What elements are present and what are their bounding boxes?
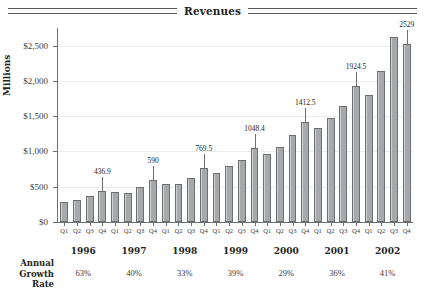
bar: [403, 44, 411, 222]
x-axis-quarter-label: Q4: [149, 227, 157, 235]
bar: [301, 122, 309, 222]
data-label: 2529: [399, 21, 414, 29]
x-axis-tick: [166, 222, 167, 226]
x-axis-tick: [229, 222, 230, 226]
bar: [124, 193, 132, 222]
bar: [86, 196, 94, 222]
bar: [175, 184, 183, 222]
x-axis-quarter-label: Q2: [225, 227, 233, 235]
agr-line-3: Rate: [6, 279, 54, 290]
growth-rate-value: 63%: [76, 268, 92, 278]
x-axis-quarter-label: Q3: [238, 227, 246, 235]
data-label: 590: [147, 157, 158, 165]
growth-rate-row: 63%40%33%39%29%36%41%: [57, 268, 413, 280]
bar: [225, 166, 233, 222]
year-label: 1997: [122, 246, 147, 257]
year-label: 2001: [324, 246, 349, 257]
year-label: 2002: [375, 246, 400, 257]
y-axis-tick-label: $1,000: [0, 146, 48, 156]
x-axis-quarter-label: Q2: [276, 227, 284, 235]
growth-rate-value: 39%: [228, 268, 244, 278]
x-axis-quarter-label: Q3: [339, 227, 347, 235]
x-axis-quarter-label: Q3: [187, 227, 195, 235]
data-label: 1412.5: [295, 99, 316, 107]
bar: [327, 118, 335, 222]
y-axis-tick-label: $500: [0, 182, 48, 192]
x-axis-tick: [115, 222, 116, 226]
year-row: 1996199719981999200020012002: [57, 246, 413, 258]
data-label: 1048.4: [244, 125, 265, 133]
x-axis-quarter-label: Q1: [162, 227, 170, 235]
x-axis-tick: [267, 222, 268, 226]
x-axis-tick: [242, 222, 243, 226]
data-label-leader-line: [153, 166, 154, 180]
bar: [111, 192, 119, 222]
bar: [60, 202, 68, 222]
growth-rate-value: 36%: [329, 268, 345, 278]
plot-area: 436.9590769.51048.41412.51924.52529 Q1Q2…: [57, 28, 413, 222]
bar: [213, 173, 221, 222]
data-label: 436.9: [94, 168, 111, 176]
bar: [276, 147, 284, 222]
x-axis-line: [57, 222, 413, 223]
x-axis-tick: [407, 222, 408, 226]
agr-line-1: Annual: [6, 258, 54, 269]
page-title: Revenues: [177, 5, 248, 17]
bar: [314, 128, 322, 222]
year-label: 2000: [274, 246, 299, 257]
chart-figure: Revenues Millions $0$500$1,000$1,500$2,0…: [0, 0, 425, 306]
x-axis-tick: [356, 222, 357, 226]
x-axis-tick: [102, 222, 103, 226]
bar: [187, 178, 195, 222]
x-axis-quarter-label: Q4: [251, 227, 259, 235]
y-axis-tick: [53, 222, 58, 223]
bar: [352, 86, 360, 222]
y-axis-tick-label: $1,500: [0, 111, 48, 121]
x-axis-tick: [343, 222, 344, 226]
x-axis-quarter-label: Q2: [124, 227, 132, 235]
x-axis-quarter-label: Q1: [60, 227, 68, 235]
chart-title-row: Revenues: [8, 3, 417, 19]
bar: [377, 71, 385, 222]
y-axis-tick-label: $2,500: [0, 41, 48, 51]
x-axis-tick: [128, 222, 129, 226]
x-axis-tick: [90, 222, 91, 226]
x-axis-quarter-label: Q4: [301, 227, 309, 235]
bar: [200, 168, 208, 222]
x-axis-tick: [394, 222, 395, 226]
x-axis-tick: [305, 222, 306, 226]
x-axis-quarter-label: Q1: [263, 227, 271, 235]
x-axis-tick: [178, 222, 179, 226]
data-label-leader-line: [305, 108, 306, 122]
x-axis-quarter-label: Q3: [136, 227, 144, 235]
x-axis-quarter-label: Q3: [86, 227, 94, 235]
bar: [73, 200, 81, 222]
x-axis-tick: [77, 222, 78, 226]
data-label-leader-line: [407, 30, 408, 44]
data-label: 1924.5: [346, 63, 367, 71]
title-rule-left: [8, 8, 177, 14]
bar: [98, 191, 106, 222]
bar-series: [58, 28, 413, 222]
x-axis-tick: [381, 222, 382, 226]
x-axis-quarter-label: Q4: [200, 227, 208, 235]
x-axis-tick: [255, 222, 256, 226]
y-axis-tick-label: $2,000: [0, 76, 48, 86]
growth-rate-value: 40%: [126, 268, 142, 278]
agr-line-2: Growth: [6, 269, 54, 280]
year-label: 1996: [71, 246, 96, 257]
bar: [365, 95, 373, 222]
x-axis-tick: [204, 222, 205, 226]
x-axis-quarter-label: Q2: [327, 227, 335, 235]
x-axis-tick: [216, 222, 217, 226]
x-axis-quarter-label: Q2: [174, 227, 182, 235]
x-axis-tick: [318, 222, 319, 226]
x-axis-tick: [153, 222, 154, 226]
bar: [339, 106, 347, 222]
y-axis-tick-label: $0: [0, 217, 48, 227]
x-axis-tick: [140, 222, 141, 226]
year-label: 1998: [172, 246, 197, 257]
bar: [289, 135, 297, 222]
x-axis-quarter-label: Q4: [403, 227, 411, 235]
data-label-leader-line: [356, 72, 357, 86]
